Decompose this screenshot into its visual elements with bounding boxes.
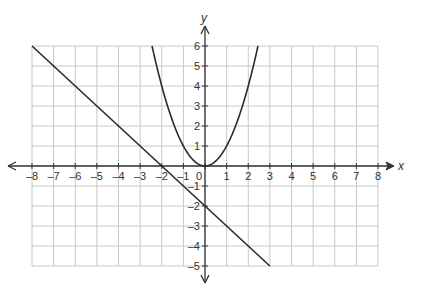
x-tick-label: 3 xyxy=(267,170,273,182)
tick-labels: –8–7–6–5–4–3–2–1012345678–5–4–3–2–112345… xyxy=(26,40,381,272)
curves xyxy=(32,46,270,266)
y-axis-label: y xyxy=(200,11,208,25)
x-tick-label: –8 xyxy=(26,170,38,182)
x-axis-label: x xyxy=(397,159,405,173)
y-tick-label: 3 xyxy=(194,100,200,112)
y-tick-label: –4 xyxy=(188,240,200,252)
x-tick-label: 7 xyxy=(353,170,359,182)
y-tick-label: –1 xyxy=(188,180,200,192)
x-tick-label: –4 xyxy=(112,170,124,182)
x-tick-label: 2 xyxy=(245,170,251,182)
y-tick-label: 6 xyxy=(194,40,200,52)
y-tick-label: –2 xyxy=(188,200,200,212)
x-tick-label: 8 xyxy=(375,170,381,182)
x-tick-label: –3 xyxy=(134,170,146,182)
y-tick-label: 4 xyxy=(194,80,200,92)
y-tick-label: –5 xyxy=(188,260,200,272)
x-tick-label: 4 xyxy=(288,170,294,182)
x-tick-label: –7 xyxy=(48,170,60,182)
x-tick-label: 5 xyxy=(310,170,316,182)
coordinate-plane: –8–7–6–5–4–3–2–1012345678–5–4–3–2–112345… xyxy=(0,0,422,295)
y-tick-label: 1 xyxy=(194,140,200,152)
x-tick-label: –2 xyxy=(156,170,168,182)
x-tick-label: 6 xyxy=(332,170,338,182)
x-tick-label: 1 xyxy=(224,170,230,182)
line-series xyxy=(32,46,270,266)
x-tick-label: –6 xyxy=(69,170,81,182)
x-tick-label: –5 xyxy=(91,170,103,182)
axes xyxy=(8,26,394,283)
y-tick-label: 2 xyxy=(194,120,200,132)
y-tick-label: 5 xyxy=(194,60,200,72)
y-tick-label: –3 xyxy=(188,220,200,232)
